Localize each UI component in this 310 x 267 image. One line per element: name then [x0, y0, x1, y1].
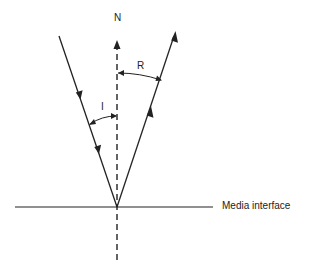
incident-arrow-icon-2	[94, 145, 101, 154]
angle-reflection-label: R	[137, 61, 144, 71]
angle-r-arc	[118, 73, 161, 80]
reflection-diagram	[0, 0, 310, 267]
media-interface-label: Media interface	[222, 201, 290, 211]
angle-incidence-label: I	[101, 102, 104, 112]
incident-arrow-icon-1	[76, 90, 83, 99]
normal-label: N	[114, 13, 121, 23]
angle-r-arrow-left-icon	[118, 70, 124, 76]
normal-arrowhead-icon	[114, 40, 121, 49]
angle-i-arrow-left-icon	[89, 119, 96, 125]
incident-ray	[59, 36, 117, 207]
reflected-ray	[117, 36, 174, 207]
angle-i-arrow-right-icon	[111, 113, 117, 119]
